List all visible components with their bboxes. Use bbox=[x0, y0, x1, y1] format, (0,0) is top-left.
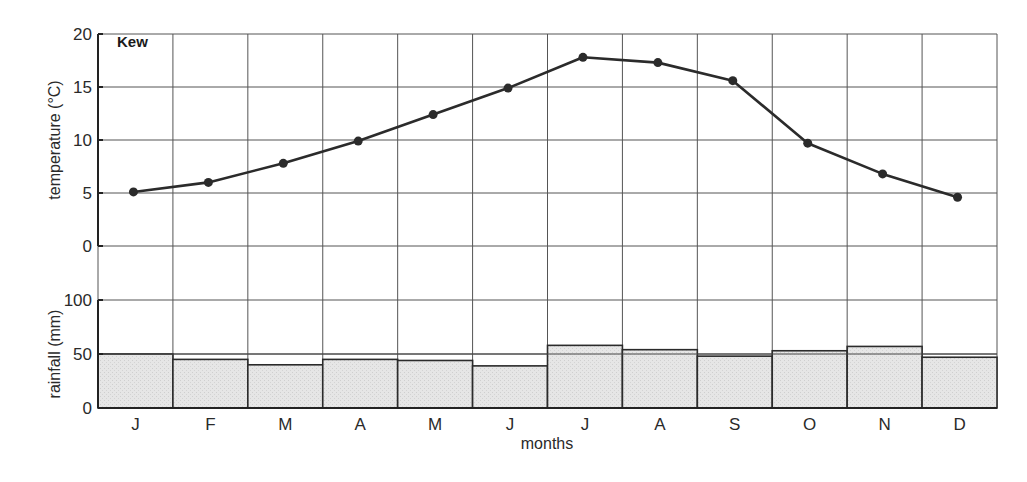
rainfall-bar bbox=[622, 350, 697, 408]
rainfall-bar bbox=[473, 366, 548, 408]
temperature-point bbox=[204, 178, 213, 187]
temperature-point bbox=[504, 84, 513, 93]
rain-tick-label: 50 bbox=[73, 345, 92, 364]
month-label: A bbox=[654, 415, 666, 434]
temperature-line bbox=[129, 53, 962, 202]
temp-tick-label: 20 bbox=[73, 25, 92, 44]
temperature-point bbox=[578, 53, 587, 62]
month-label: M bbox=[428, 415, 442, 434]
temperature-axis-title: temperature (°C) bbox=[46, 80, 63, 199]
temperature-point bbox=[728, 76, 737, 85]
temperature-point bbox=[129, 187, 138, 196]
rainfall-bar bbox=[697, 356, 772, 408]
rainfall-bars bbox=[98, 345, 997, 408]
months-axis-title: months bbox=[521, 435, 573, 452]
rainfall-bar bbox=[548, 345, 623, 408]
rain-tick-label: 0 bbox=[83, 399, 92, 418]
month-label: J bbox=[131, 415, 140, 434]
rainfall-bar bbox=[398, 360, 473, 408]
climate-chart: 05101520050100JFMAMJJASOND Kew temperatu… bbox=[0, 0, 1027, 482]
temperature-point bbox=[429, 110, 438, 119]
temperature-point bbox=[953, 193, 962, 202]
station-title: Kew bbox=[117, 33, 148, 50]
month-label: J bbox=[506, 415, 515, 434]
month-label: D bbox=[953, 415, 965, 434]
month-label: O bbox=[803, 415, 816, 434]
rainfall-bar bbox=[248, 365, 323, 408]
temperature-point bbox=[279, 159, 288, 168]
month-label: S bbox=[729, 415, 740, 434]
rainfall-bar bbox=[922, 357, 997, 408]
month-label: M bbox=[278, 415, 292, 434]
temp-tick-label: 15 bbox=[73, 78, 92, 97]
temperature-point bbox=[803, 139, 812, 148]
temp-tick-label: 0 bbox=[83, 237, 92, 256]
rainfall-bar bbox=[173, 359, 248, 408]
rainfall-axis-title: rainfall (mm) bbox=[46, 310, 63, 399]
month-label: F bbox=[205, 415, 215, 434]
temperature-point bbox=[653, 58, 662, 67]
temp-tick-label: 5 bbox=[83, 184, 92, 203]
rain-tick-label: 100 bbox=[64, 291, 92, 310]
rainfall-bar bbox=[772, 351, 847, 408]
temp-tick-label: 10 bbox=[73, 131, 92, 150]
month-label: N bbox=[878, 415, 890, 434]
rainfall-bar bbox=[847, 346, 922, 408]
month-label: A bbox=[355, 415, 367, 434]
rainfall-bar bbox=[323, 359, 398, 408]
rainfall-bar bbox=[98, 354, 173, 408]
temperature-point bbox=[878, 169, 887, 178]
temperature-point bbox=[354, 137, 363, 146]
temperature-polyline bbox=[133, 57, 957, 197]
month-label: J bbox=[581, 415, 590, 434]
